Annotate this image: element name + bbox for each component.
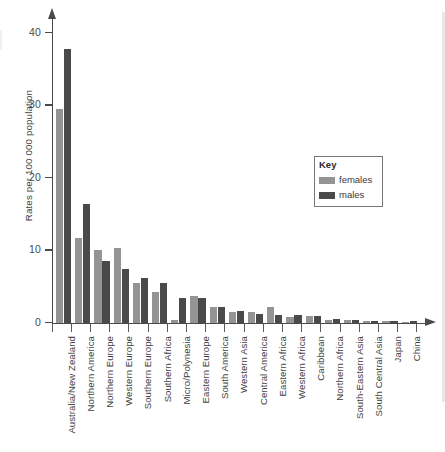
bar-females-18 [402,322,409,323]
x-axis-category-label: Northern Europe [104,336,115,408]
bar-females-6 [171,320,178,322]
y-axis-tick-label: 10 [1,243,41,255]
x-axis-category-label: Central America [258,336,269,405]
bar-females-15 [344,320,351,322]
x-axis-tick [282,324,283,332]
x-axis-tick [71,324,72,332]
bar-females-4 [133,283,140,323]
y-axis-tick-label: 30 [1,98,41,110]
bar-females-14 [325,320,332,322]
x-axis-category-label: Western Europe [123,336,134,406]
legend-title: Key [319,159,336,170]
legend-label-males: males [339,189,364,200]
y-axis-tick [45,322,52,323]
bar-males-13 [314,316,321,323]
bar-females-8 [210,307,217,323]
bar-males-15 [352,320,359,322]
legend-swatch-males-icon [319,192,335,199]
x-axis-tick [359,324,360,332]
bar-males-17 [390,321,397,322]
x-axis-category-label: Japan [392,336,403,362]
x-axis-tick [263,324,264,332]
x-axis-category-label: Caribbean [315,336,326,381]
bar-females-5 [152,292,159,322]
bar-males-2 [102,261,109,323]
x-axis-category-label: Eastern Africa [277,336,288,396]
bar-males-10 [256,314,263,323]
x-axis-tick [205,324,206,332]
y-axis-tick [45,104,52,105]
x-axis-category-label: South America [219,336,230,399]
bar-females-17 [382,321,389,322]
x-axis-tick [378,324,379,332]
x-axis-category-label: China [411,336,422,361]
bar-males-5 [160,283,167,323]
legend: Key females males [314,156,383,207]
x-axis-tick [320,324,321,332]
bar-females-1 [75,238,82,323]
bar-females-11 [267,307,274,322]
x-axis-category-label: Western Africa [296,336,307,399]
x-axis-category-label: Micro/Polynesia [181,336,192,404]
bar-females-13 [306,316,313,323]
x-axis-category-label: Southern Europe [142,336,153,409]
x-axis-arrow-icon [425,318,436,326]
y-axis-tick-label-wrap: 20 [0,171,41,183]
y-axis-tick-label-wrap: 0 [0,316,41,328]
y-axis-tick-label-wrap: 40 [0,26,41,38]
y-axis-tick [45,32,52,33]
bar-males-18 [410,321,417,322]
y-axis-title: Rates per 100 000 population [23,76,34,236]
x-axis-category-label: South-Eastern Asia [354,336,365,419]
x-axis-tick [416,324,417,332]
x-axis-tick [186,324,187,332]
bar-females-16 [363,321,370,322]
bar-females-7 [190,296,197,323]
x-axis-category-label: Northern America [85,336,96,411]
legend-swatch-females-icon [319,177,335,184]
bar-females-12 [286,317,293,322]
bar-males-16 [371,321,378,322]
x-axis-tick [52,324,53,332]
bar-females-0 [56,109,63,322]
x-axis-category-label: South Central Asia [373,336,384,416]
x-axis-tick [301,324,302,332]
bar-chart: 010203040 Rates per 100 000 population A… [0,0,445,452]
bar-females-2 [94,250,101,323]
bar-males-12 [294,315,301,322]
bar-males-7 [198,298,205,323]
y-axis-tick-label-wrap: 30 [0,98,41,110]
x-axis-category-label: Southern Africa [162,336,173,402]
x-axis-category-label: Western Asia [238,336,249,393]
bar-males-3 [122,269,129,323]
bar-females-10 [248,312,255,322]
bar-males-11 [275,315,282,322]
x-axis-tick [109,324,110,332]
y-axis-tick-label: 20 [1,171,41,183]
x-axis-tick [148,324,149,332]
x-axis-tick [224,324,225,332]
bar-females-3 [114,248,121,323]
bar-males-9 [237,311,244,323]
x-axis-category-label: Australia/New Zealand [66,336,77,434]
x-axis-tick [397,324,398,332]
bar-males-1 [83,204,90,322]
bar-males-0 [64,49,71,322]
x-axis-category-label: Eastern Europe [200,336,211,403]
x-axis-tick [128,324,129,332]
bar-males-6 [179,298,186,323]
legend-label-females: females [339,174,372,185]
y-axis-tick [45,249,52,250]
x-axis-tick [90,324,91,332]
bar-females-9 [229,312,236,322]
y-axis-tick [45,177,52,178]
y-axis-tick-label: 0 [1,316,41,328]
bar-males-14 [333,319,340,323]
x-axis-tick [340,324,341,332]
x-axis-category-label: Northern Africa [334,336,345,401]
x-axis-tick [244,324,245,332]
y-axis-tick-label: 40 [1,26,41,38]
y-axis-tick-label-wrap: 10 [0,243,41,255]
x-axis-tick [167,324,168,332]
bar-males-8 [218,307,225,323]
